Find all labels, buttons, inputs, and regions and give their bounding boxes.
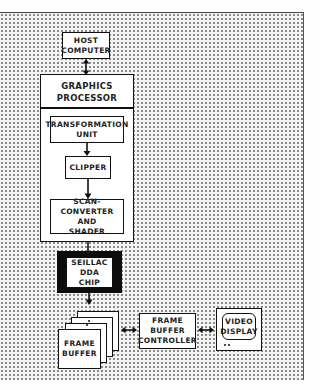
ellipsis-dot [86, 324, 88, 326]
seillac-dda-chip-label: SEILLAC DDA CHIP [71, 258, 107, 288]
frame-buffer-controller-node: FRAME BUFFER CONTROLLER [139, 313, 196, 349]
graphics-processor-label: GRAPHICS PROCESSOR [57, 80, 117, 104]
bidirectional-arrow-icon [198, 326, 214, 334]
frame-buffer-node: FRAME BUFFER [58, 329, 101, 369]
frame-buffer-label: FRAME BUFFER [62, 339, 97, 359]
bidirectional-arrow-icon [121, 326, 137, 334]
scan-converter-shader-label: SCAN-CONVERTER AND SHADER [51, 197, 123, 237]
scan-converter-shader-node: SCAN-CONVERTER AND SHADER [50, 199, 124, 234]
graphics-processor-divider [40, 107, 134, 109]
ellipsis-dot [88, 320, 90, 322]
host-computer-label: HOST COMPUTER [61, 36, 110, 56]
host-computer-node: HOST COMPUTER [62, 32, 110, 59]
indicator-dot [224, 344, 226, 346]
transformation-unit-node: TRANSFORMATION UNIT [50, 116, 124, 143]
clipper-node: CLIPPER [65, 156, 111, 179]
indicator-dot [228, 344, 230, 346]
seillac-dda-chip-face: SEILLAC DDA CHIP [67, 258, 112, 287]
clipper-label: CLIPPER [69, 163, 106, 173]
down-arrow-icon [82, 143, 92, 156]
transformation-unit-label: TRANSFORMATION UNIT [45, 120, 128, 140]
frame-buffer-controller-label: FRAME BUFFER CONTROLLER [138, 316, 197, 346]
video-display-screen: VIDEO DISPLAY [222, 313, 256, 340]
video-display-label: VIDEO DISPLAY [220, 317, 257, 337]
bidirectional-arrow-icon [81, 59, 91, 75]
video-display-node: VIDEO DISPLAY [216, 308, 262, 351]
down-arrow-icon [84, 293, 94, 305]
